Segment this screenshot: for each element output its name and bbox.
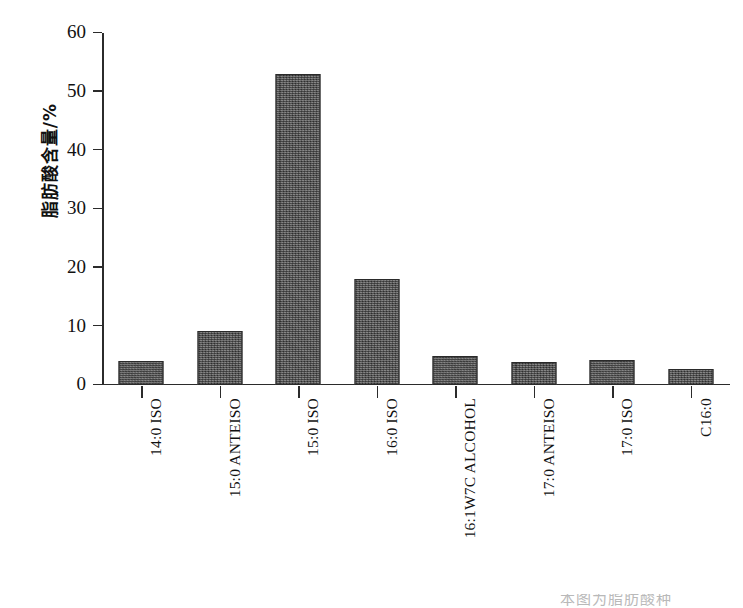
y-axis-tick-label: 10 xyxy=(67,315,86,337)
y-axis-tick: 60 xyxy=(93,32,102,33)
x-axis-tick xyxy=(141,386,142,398)
x-axis-tick xyxy=(377,386,378,398)
clipped-caption-text: 本图为脂肪酸种 xyxy=(560,594,743,608)
bar-slot xyxy=(495,33,574,385)
bar-slot xyxy=(652,33,731,385)
y-axis-tick: 40 xyxy=(93,149,102,150)
clipped-caption: 本图为脂肪酸种 xyxy=(560,594,743,608)
bar-slot xyxy=(102,33,181,385)
bar-slot xyxy=(181,33,260,385)
x-axis-labels: 14:0 ISO15:0 ANTEISO15:0 ISO16:0 ISO16:1… xyxy=(102,398,730,578)
y-axis-tick-label: 50 xyxy=(67,80,86,102)
x-axis-tick-label-text: 17:0 ISO xyxy=(618,398,636,456)
x-axis-tick-label-text: 16:1W7C ALCOHOL xyxy=(461,398,479,538)
y-axis-title: 脂肪酸含量/% xyxy=(36,81,61,241)
bar xyxy=(354,279,399,385)
x-axis-tick-label-text: 15:0 ISO xyxy=(304,398,322,456)
bar xyxy=(433,356,478,385)
bar-series xyxy=(102,33,730,385)
bar-slot xyxy=(338,33,417,385)
y-axis-tick-label: 40 xyxy=(67,139,86,161)
y-axis-tick: 20 xyxy=(93,266,102,267)
y-axis-tick: 0 xyxy=(93,384,102,385)
x-axis-tick xyxy=(298,386,299,398)
bar-chart-figure: 脂肪酸含量/% 0102030405060 14:0 ISO15:0 ANTEI… xyxy=(0,0,743,608)
x-axis-tick xyxy=(691,386,692,398)
x-axis-tick-label-text: 14:0 ISO xyxy=(147,398,165,456)
bar-slot xyxy=(259,33,338,385)
bar-slot xyxy=(573,33,652,385)
bar xyxy=(276,74,321,385)
y-axis-tick-label: 20 xyxy=(67,256,86,278)
y-axis-tick: 30 xyxy=(93,208,102,209)
x-axis-tick xyxy=(534,386,535,398)
x-axis-tick-label-text: 17:0 ANTEISO xyxy=(540,398,558,497)
y-axis-tick-label: 60 xyxy=(67,21,86,43)
x-axis-tick xyxy=(612,386,613,398)
y-axis-tick-label: 0 xyxy=(77,373,87,395)
bar xyxy=(668,369,713,385)
bar-slot xyxy=(416,33,495,385)
x-axis-tick xyxy=(455,386,456,398)
x-axis-tick-label-text: 15:0 ANTEISO xyxy=(226,398,244,497)
bar xyxy=(590,360,635,385)
bar xyxy=(119,361,164,385)
y-axis-tick: 10 xyxy=(93,325,102,326)
x-axis-tick-label-text: 16:0 ISO xyxy=(383,398,401,456)
bar xyxy=(511,362,556,385)
x-axis-tick-label-text: C16:0 xyxy=(697,398,715,437)
x-axis-tick xyxy=(220,386,221,398)
x-axis-ticks xyxy=(102,386,730,398)
bar xyxy=(197,331,242,385)
y-axis-tick: 50 xyxy=(93,90,102,91)
y-axis-tick-label: 30 xyxy=(67,197,86,219)
plot-area: 0102030405060 xyxy=(102,33,730,385)
